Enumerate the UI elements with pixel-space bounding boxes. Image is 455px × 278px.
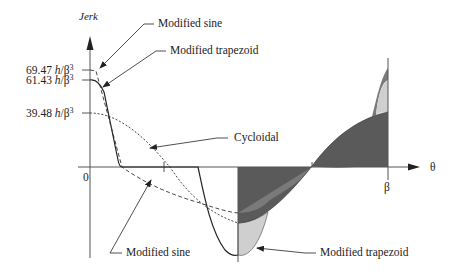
modified-sine-curve — [90, 70, 238, 213]
modified-trapezoid-curve — [90, 80, 238, 255]
shaded-regions — [238, 68, 388, 255]
origin-label: 0 — [83, 171, 89, 183]
leader-modified-trapezoid-top — [103, 51, 166, 87]
leader-arrows — [100, 24, 316, 253]
y-tick-label-61: 61.43 h/β3 — [26, 73, 74, 87]
callout-cycloidal: Cycloidal — [234, 131, 279, 144]
leader-modified-sine-top — [100, 24, 154, 68]
beta-label: β — [384, 181, 390, 194]
callout-modified-sine-bottom: Modified sine — [126, 246, 190, 258]
leader-cycloidal — [150, 138, 228, 148]
callout-modified-trapezoid-bottom: Modified trapezoid — [320, 246, 409, 259]
y-axis-arrow-icon — [87, 36, 94, 50]
y-axis-label: Jerk — [79, 10, 99, 22]
callout-modified-sine-top: Modified sine — [158, 17, 222, 29]
callout-modified-trapezoid-top: Modified trapezoid — [170, 44, 259, 57]
leader-modified-sine-bottom — [110, 180, 151, 253]
x-axis-label: θ — [430, 161, 436, 173]
jerk-comparison-diagram: Jerk θ 0 β 69.47 h/β3 61.43 h/β3 39.48 h… — [0, 0, 455, 278]
y-tick-label-39: 39.48 h/β3 — [26, 106, 74, 120]
x-axis-arrow-icon — [408, 164, 420, 171]
leader-modified-trapezoid-bottom — [257, 248, 316, 253]
